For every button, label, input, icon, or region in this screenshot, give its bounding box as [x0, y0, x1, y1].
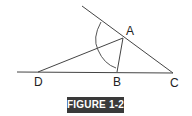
line-horizontal-dc: [17, 72, 173, 73]
point-label-c: C: [170, 77, 179, 89]
point-label-d: D: [34, 76, 43, 88]
segment-ab: [117, 38, 123, 72]
point-label-b: B: [113, 76, 121, 88]
point-label-a: A: [126, 25, 134, 37]
segment-ad: [38, 38, 123, 72]
figure-caption: FIGURE 1-2: [67, 97, 124, 113]
